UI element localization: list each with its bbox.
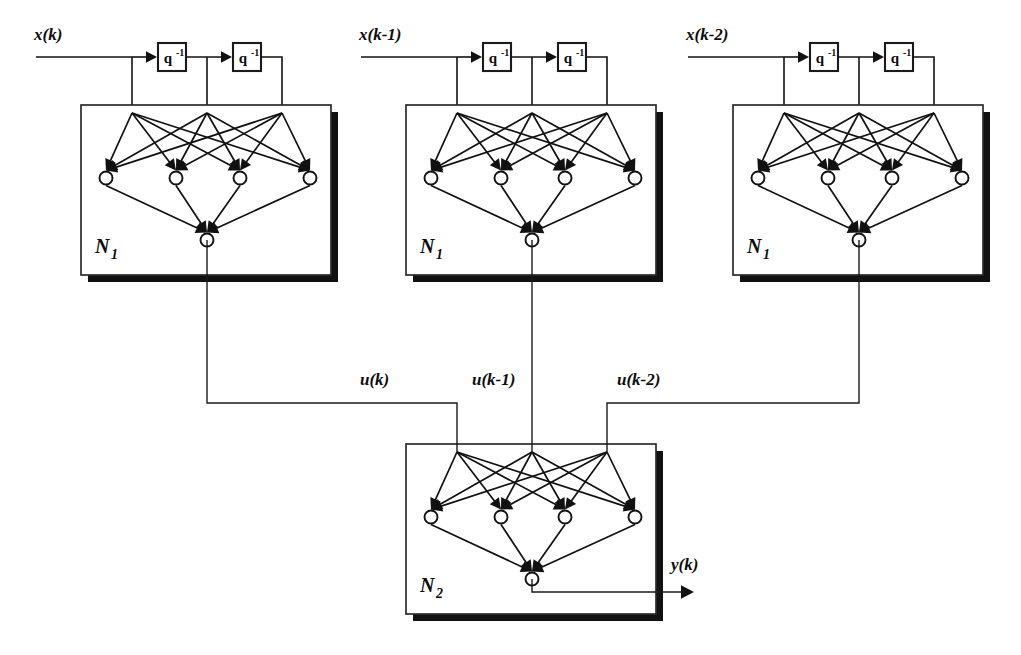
stage-2-delay-2[interactable]: q-1 bbox=[558, 43, 586, 71]
stage-3-delay-1-base: q bbox=[816, 50, 825, 66]
stage-2-delay-2-exponent: -1 bbox=[576, 47, 584, 58]
stage-3-delay-1[interactable]: q-1 bbox=[810, 43, 838, 71]
stage-2-network-label: N bbox=[419, 235, 436, 257]
stage-out-group: N2 bbox=[406, 444, 663, 621]
output-arrow-icon bbox=[681, 585, 694, 599]
wire-arrow-icon bbox=[221, 51, 232, 62]
neural-network-block-diagram: x(k)q-1q-1N1x(k-1)q-1q-1N1x(k-2)q-1q-1N1… bbox=[0, 0, 1021, 655]
stage-2-network-panel bbox=[406, 105, 656, 275]
stage-3-delay-2-base: q bbox=[891, 50, 900, 66]
stage-1-network: N1 bbox=[81, 105, 338, 282]
stage-1-input-label: x(k) bbox=[33, 25, 62, 44]
stage-2-network-label-subscript: 1 bbox=[436, 247, 443, 262]
stage-2-delay-1-exponent: -1 bbox=[501, 47, 509, 58]
stage-1-delay-1[interactable]: q-1 bbox=[158, 43, 186, 71]
stage-1-delay-2[interactable]: q-1 bbox=[233, 43, 261, 71]
stage-2-delay-1[interactable]: q-1 bbox=[483, 43, 511, 71]
hidden-neuron bbox=[559, 172, 572, 185]
output-label-y: y(k) bbox=[669, 555, 698, 574]
wire-arrow-icon bbox=[471, 51, 482, 62]
stage-3-network-label: N bbox=[746, 235, 763, 257]
hidden-neuron bbox=[234, 172, 247, 185]
stage-2-group: x(k-1)q-1q-1N1 bbox=[358, 25, 663, 282]
stage-3-delay-1-exponent: -1 bbox=[828, 47, 836, 58]
stage-1-output-label: u(k) bbox=[360, 370, 389, 389]
stage-2-output-label: u(k-1) bbox=[472, 370, 515, 389]
stage-2-network: N1 bbox=[406, 105, 663, 282]
hidden-neuron bbox=[100, 172, 113, 185]
stage-2-delay-1-base: q bbox=[489, 50, 498, 66]
stage-3-group: x(k-2)q-1q-1N1 bbox=[685, 25, 990, 282]
stage-3-delay-2-exponent: -1 bbox=[903, 47, 911, 58]
hidden-neuron bbox=[956, 172, 969, 185]
hidden-neuron bbox=[495, 172, 508, 185]
stage-out-network-label: N bbox=[419, 574, 436, 596]
stage-out-network: N2 bbox=[406, 444, 663, 621]
stage-1-network-panel bbox=[81, 105, 331, 275]
stage-3-network-panel bbox=[733, 105, 983, 275]
stage-1-group: x(k)q-1q-1N1 bbox=[33, 25, 338, 282]
hidden-neuron bbox=[304, 172, 317, 185]
stage-3-input-label: x(k-2) bbox=[685, 25, 728, 44]
stage-3-output-label: u(k-2) bbox=[617, 370, 660, 389]
wire-arrow-icon bbox=[146, 51, 157, 62]
hidden-neuron bbox=[425, 511, 438, 524]
stage-3-network: N1 bbox=[733, 105, 990, 282]
stage-1-network-label-subscript: 1 bbox=[111, 247, 118, 262]
stage-2-delay-2-base: q bbox=[564, 50, 573, 66]
stage-out-network-panel bbox=[406, 444, 656, 614]
hidden-neuron bbox=[629, 172, 642, 185]
hidden-neuron bbox=[886, 172, 899, 185]
stage-2-input-label: x(k-1) bbox=[358, 25, 401, 44]
stage-out-network-label-subscript: 2 bbox=[435, 586, 443, 601]
hidden-neuron bbox=[822, 172, 835, 185]
hidden-neuron bbox=[629, 511, 642, 524]
hidden-neuron bbox=[752, 172, 765, 185]
wire-arrow-icon bbox=[873, 51, 884, 62]
stage-1-delay-1-base: q bbox=[164, 50, 173, 66]
hidden-neuron bbox=[170, 172, 183, 185]
stage-3-delay-2[interactable]: q-1 bbox=[885, 43, 913, 71]
diagram-canvas: x(k)q-1q-1N1x(k-1)q-1q-1N1x(k-2)q-1q-1N1… bbox=[0, 0, 1021, 655]
hidden-neuron bbox=[559, 511, 572, 524]
stage-3-network-label-subscript: 1 bbox=[763, 247, 770, 262]
stage-1-network-label: N bbox=[94, 235, 111, 257]
stage-1-delay-1-exponent: -1 bbox=[176, 47, 184, 58]
wire-arrow-icon bbox=[798, 51, 809, 62]
stage-1-delay-2-base: q bbox=[239, 50, 248, 66]
hidden-neuron bbox=[495, 511, 508, 524]
hidden-neuron bbox=[425, 172, 438, 185]
wire-arrow-icon bbox=[546, 51, 557, 62]
stage-1-delay-2-exponent: -1 bbox=[251, 47, 259, 58]
